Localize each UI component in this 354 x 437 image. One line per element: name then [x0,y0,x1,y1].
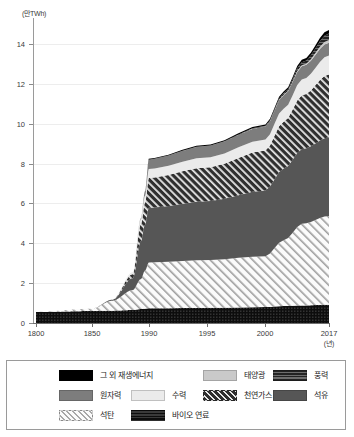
energy-consumption-area-chart: (만TWh) 02468101214 [0,0,354,437]
legend-item-solar[interactable]: 태양광 [203,369,265,382]
legend-item-coal[interactable]: 석탄 [59,409,114,422]
legend-label-hydro: 수력 [172,390,186,401]
legend-item-other-renewables[interactable]: 그 외 재생에너지 [59,369,153,382]
x-tick-mark [265,323,266,327]
x-tick-label: 1995 [199,329,216,338]
legend-swatch-other-renewables [59,370,93,381]
x-tick-mark [92,323,93,327]
legend-label-biofuel: 바이오 연료 [172,410,209,421]
legend-item-natural-gas[interactable]: 천연가스 [203,389,272,402]
legend-item-nuclear[interactable]: 원자력 [59,389,121,402]
x-tick-label: 1850 [84,329,101,338]
legend-label-solar: 태양광 [244,370,265,381]
legend-item-oil[interactable]: 석유 [273,389,328,402]
legend-label-coal: 석탄 [100,410,114,421]
legend-swatch-wind [273,370,307,381]
legend-label-natural-gas: 천연가스 [244,390,272,401]
legend-item-wind[interactable]: 풍력 [273,369,328,382]
x-tick-mark [207,323,208,327]
legend-label-wind: 풍력 [314,370,328,381]
legend-swatch-biofuel [131,410,165,421]
legend-label-other-renewables: 그 외 재생에너지 [100,370,153,381]
legend-swatch-nuclear [59,390,93,401]
legend-label-oil: 석유 [314,390,328,401]
legend-label-nuclear: 원자력 [100,390,121,401]
legend-swatch-natural-gas [203,390,237,401]
x-tick-label: 1800 [28,329,45,338]
legend-item-hydro[interactable]: 수력 [131,389,186,402]
x-tick-label: 2000 [257,329,274,338]
x-tick-mark [149,323,150,327]
x-tick-mark [36,323,37,327]
legend: 그 외 재생에너지태양광풍력원자력수력천연가스석유석탄바이오 연료 [6,360,346,430]
legend-swatch-solar [203,370,237,381]
legend-item-biofuel[interactable]: 바이오 연료 [131,409,209,422]
legend-swatch-oil [273,390,307,401]
stacked-area-series [0,0,354,352]
x-tick-label: 2017 [321,329,338,338]
plot-area: (만TWh) 02468101214 [0,0,354,352]
legend-swatch-coal [59,410,93,421]
x-axis-unit-label: (년) [324,338,335,348]
x-tick-mark [329,323,330,327]
x-tick-label: 1990 [141,329,158,338]
legend-swatch-hydro [131,390,165,401]
x-axis-line [33,323,329,324]
